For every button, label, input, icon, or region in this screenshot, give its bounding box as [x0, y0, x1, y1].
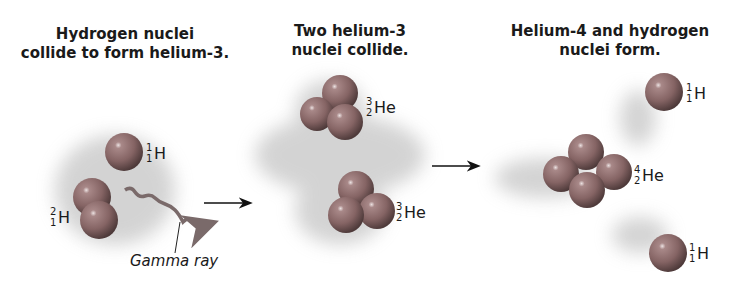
label-he3-lower: 32He: [396, 205, 426, 221]
label-h1-upper-right: 11H: [686, 86, 706, 102]
gamma-ray-pointer: [175, 222, 180, 253]
stage1-title-line2: collide to form helium-3.: [10, 44, 240, 63]
label-h1-lower-right: 11H: [689, 246, 709, 262]
stage3-title: Helium-4 and hydrogen nuclei form.: [500, 22, 720, 60]
stage1-title: Hydrogen nuclei collide to form helium-3…: [10, 25, 240, 63]
stage2-title-line2: nuclei collide.: [270, 41, 430, 60]
stage3-title-line2: nuclei form.: [500, 41, 720, 60]
label-he4: 42He: [634, 168, 664, 184]
stage2-title-line1: Two helium-3: [270, 22, 430, 41]
label-h1-stage1: 11H: [146, 146, 166, 162]
hydrogen-nucleus-lower-right: [649, 234, 687, 272]
stage2-title: Two helium-3 nuclei collide.: [270, 22, 430, 60]
label-h2-stage1: 21H: [50, 210, 70, 226]
stage1-title-line1: Hydrogen nuclei: [10, 25, 240, 44]
hydrogen-1-nucleus: [105, 133, 143, 171]
label-he3-upper: 32He: [366, 100, 396, 116]
stage3-title-line1: Helium-4 and hydrogen: [500, 22, 720, 41]
hydrogen-nucleus-upper-right: [645, 73, 683, 111]
gamma-ray-label: Gamma ray: [130, 252, 218, 270]
